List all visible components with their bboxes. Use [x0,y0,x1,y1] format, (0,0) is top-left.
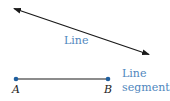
line-label: Line [64,34,88,47]
line-with-arrows [14,9,149,55]
point-a-label: A [12,83,20,96]
point-b-label: B [104,83,112,96]
point-b-dot [106,77,111,82]
segment-label-line2: segment [122,81,170,94]
point-a-dot [14,77,19,82]
segment-label-line1: Line [122,67,146,80]
